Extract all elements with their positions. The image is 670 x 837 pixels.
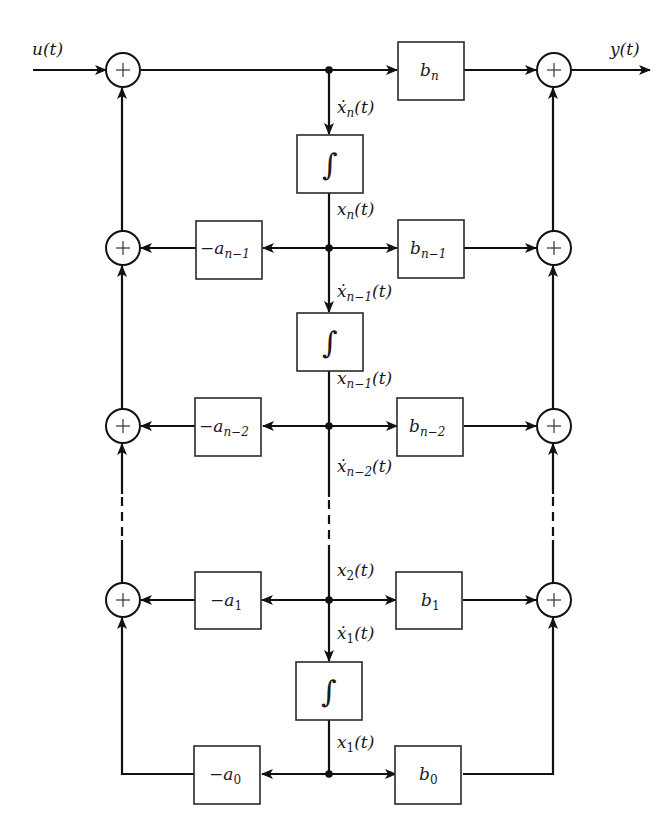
gain-block-a1: −a1 [195,572,261,629]
junction-dot [325,66,333,74]
integrator-block-n-1: ∫ [297,313,363,371]
block-diagram: ∫ ∫ ∫ bn bn−1 bn−2 b1 b0 [0,0,670,837]
gain-block-bn-1: bn−1 [398,220,464,278]
label-xdot-n: ẋn(t) [337,97,374,120]
gain-block-bn: bn [398,42,464,100]
integrator-block-n: ∫ [297,135,363,193]
sum-right-n2 [537,409,571,443]
label-xdot-1: ẋ1(t) [337,623,374,646]
sum-right-n1 [537,231,571,265]
gain-block-b1: b1 [396,572,462,629]
junction-dot [325,596,333,604]
output-label: y(t) [609,39,640,59]
sum-right-top [537,53,571,87]
label-x-1: x1(t) [337,732,374,755]
integral-icon: ∫ [322,325,338,360]
wire-b0-to-sum [463,618,553,774]
sum-right-1 [537,583,571,617]
gain-block-b0: b0 [395,746,461,804]
gain-block-an-2: −an−2 [195,398,261,456]
label-xdot-n-1: ẋn−1(t) [337,281,392,304]
sum-left-n1 [106,231,140,265]
input-label: u(t) [32,39,63,59]
sum-left-top [106,53,140,87]
gain-block-an-1: −an−1 [196,221,262,279]
integral-icon: ∫ [321,674,337,709]
wire-a0-to-sum [122,618,195,774]
label-xdot-n-2: ẋn−2(t) [337,456,392,479]
sum-left-1 [106,583,140,617]
integrator-block-1: ∫ [296,662,362,720]
junction-dot [325,244,333,252]
gain-block-a0: −a0 [194,746,260,804]
sum-left-n2 [106,409,140,443]
label-x-n: xn(t) [337,199,374,222]
integral-icon: ∫ [322,147,338,182]
label-x-2: x2(t) [337,560,374,583]
gain-block-bn-2: bn−2 [397,398,463,456]
junction-dot [325,422,333,430]
label-x-n-1: xn−1(t) [337,368,392,391]
junction-dot [325,770,333,778]
